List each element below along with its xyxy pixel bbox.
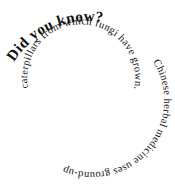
spiral-text-graphic: Did you know? Chinese herbal medicine us… (0, 0, 175, 190)
outer-ring-path: Chinese herbal medicine uses ground-up (61, 57, 174, 181)
outer-ring-text: Chinese herbal medicine uses ground-up (61, 57, 174, 181)
